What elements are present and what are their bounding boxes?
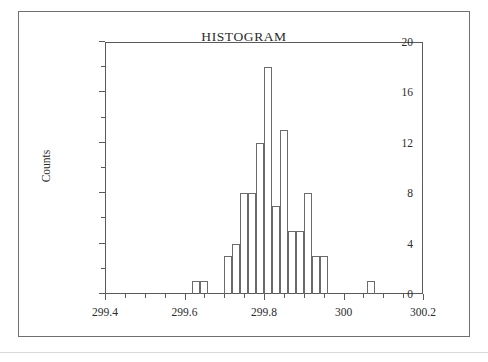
x-tick-minor bbox=[204, 294, 205, 298]
y-tick-major bbox=[99, 142, 105, 143]
x-tick-label: 300.2 bbox=[410, 306, 436, 318]
x-tick-label: 299.6 bbox=[172, 306, 198, 318]
x-tick-minor bbox=[165, 294, 166, 298]
x-tick-minor bbox=[363, 294, 364, 298]
x-tick-label: 299.4 bbox=[92, 306, 118, 318]
histogram-bar bbox=[296, 231, 304, 294]
y-tick-major bbox=[99, 243, 105, 244]
x-tick-minor bbox=[224, 294, 225, 298]
x-tick-major bbox=[185, 294, 186, 300]
histogram-bar bbox=[312, 256, 320, 294]
histogram-bar bbox=[367, 281, 375, 294]
histogram-bar bbox=[224, 256, 232, 294]
x-tick-minor bbox=[383, 294, 384, 298]
x-tick-major bbox=[423, 294, 424, 300]
figure-root: HISTOGRAM Counts 048121620 299.4299.6299… bbox=[0, 0, 488, 362]
y-axis-title: Counts bbox=[40, 150, 52, 183]
histogram-bar bbox=[232, 244, 240, 294]
y-tick-label: 0 bbox=[407, 288, 413, 300]
x-tick-label: 300 bbox=[335, 306, 352, 318]
x-tick-major bbox=[105, 294, 106, 300]
histogram-bar bbox=[200, 281, 208, 294]
histogram-bar bbox=[248, 193, 256, 294]
histogram-bar bbox=[264, 67, 272, 294]
y-tick-minor bbox=[101, 117, 105, 118]
page-horizontal-rule bbox=[0, 352, 488, 353]
y-tick-minor bbox=[101, 268, 105, 269]
y-tick-major bbox=[99, 41, 105, 42]
y-tick-label: 8 bbox=[407, 187, 413, 199]
histogram-bar bbox=[240, 193, 248, 294]
y-tick-major bbox=[99, 91, 105, 92]
x-tick-minor bbox=[304, 294, 305, 298]
x-tick-major bbox=[344, 294, 345, 300]
histogram-bar bbox=[304, 193, 312, 294]
y-tick-label: 4 bbox=[407, 238, 413, 250]
histogram-bar bbox=[192, 281, 200, 294]
x-tick-minor bbox=[324, 294, 325, 298]
x-tick-minor bbox=[284, 294, 285, 298]
plot-area: 048121620 299.4299.6299.8300300.2 bbox=[105, 42, 423, 294]
x-tick-minor bbox=[125, 294, 126, 298]
y-tick-minor bbox=[101, 167, 105, 168]
histogram-figure: HISTOGRAM Counts 048121620 299.4299.6299… bbox=[18, 11, 470, 337]
y-tick-label: 12 bbox=[402, 137, 414, 149]
y-tick-major bbox=[99, 192, 105, 193]
x-tick-major bbox=[264, 294, 265, 300]
histogram-bar bbox=[288, 231, 296, 294]
y-tick-minor bbox=[101, 217, 105, 218]
x-tick-minor bbox=[145, 294, 146, 298]
histogram-bar bbox=[280, 130, 288, 294]
x-tick-minor bbox=[403, 294, 404, 298]
x-tick-minor bbox=[244, 294, 245, 298]
y-tick-minor bbox=[101, 66, 105, 67]
histogram-bar bbox=[272, 206, 280, 294]
y-tick-label: 20 bbox=[402, 36, 414, 48]
histogram-bar bbox=[256, 143, 264, 294]
y-tick-label: 16 bbox=[402, 86, 414, 98]
x-tick-label: 299.8 bbox=[251, 306, 277, 318]
histogram-bar bbox=[320, 256, 328, 294]
